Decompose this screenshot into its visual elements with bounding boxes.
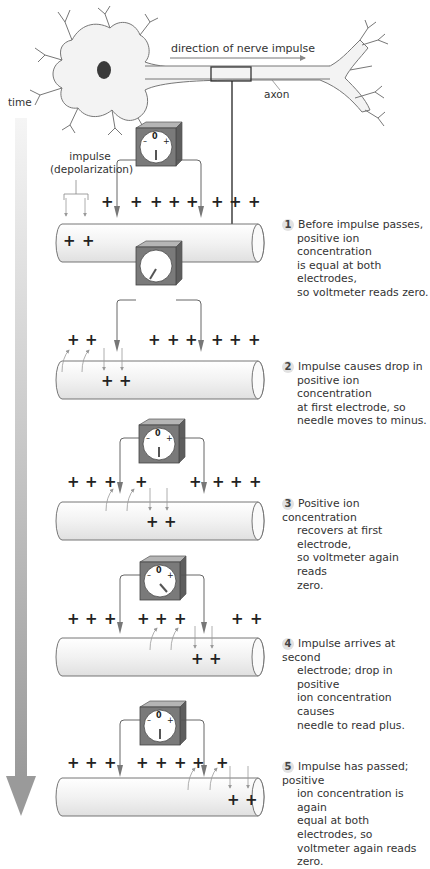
step-number-badge: 4 (282, 638, 294, 650)
svg-text:+: + (227, 791, 240, 809)
impulse-label-line2: (depolarization) (50, 163, 130, 176)
meter-plus-label: + (166, 434, 173, 443)
impulse-label: impulse (depolarization) (50, 150, 130, 176)
meter-plus-label: + (167, 716, 174, 725)
caption-line: so voltmeter reads zero. (282, 286, 430, 300)
caption-line: zero. (282, 579, 430, 593)
impulse-label-line1: impulse (50, 150, 130, 163)
axon-segment (56, 638, 264, 676)
svg-text:+: + (185, 331, 198, 349)
caption-line: Impulse arrives at second (282, 637, 395, 664)
svg-text:+: + (167, 331, 180, 349)
meter-minus-label: – (143, 137, 147, 146)
svg-text:+: + (135, 473, 148, 491)
meter-minus-label: – (147, 571, 151, 580)
axon-segment (56, 502, 264, 540)
svg-text:+: + (67, 610, 80, 628)
axon-label: axon (264, 88, 289, 100)
svg-text:+: + (67, 331, 80, 349)
svg-text:+: + (85, 331, 98, 349)
svg-text:+: + (104, 610, 117, 628)
meter-zero-label: 0 (155, 429, 161, 438)
svg-text:+: + (85, 610, 98, 628)
step-3-caption: 3Positive ion concentration recovers at … (282, 497, 430, 592)
svg-text:+: + (101, 372, 114, 390)
svg-text:+: + (174, 610, 187, 628)
svg-text:+: + (119, 372, 132, 390)
svg-text:+: + (130, 193, 143, 211)
svg-text:+: + (249, 473, 262, 491)
svg-text:+: + (137, 610, 150, 628)
svg-text:+: + (229, 331, 242, 349)
caption-line: voltmeter again reads zero. (282, 842, 430, 869)
svg-text:+: + (82, 232, 95, 250)
step-2-wires (56, 300, 264, 399)
svg-text:+: + (248, 331, 261, 349)
svg-text:+: + (229, 193, 242, 211)
caption-line: so voltmeter again reads (282, 551, 430, 578)
svg-text:+: + (146, 513, 159, 531)
svg-text:+: + (155, 754, 168, 772)
step-2-figure (136, 241, 182, 285)
svg-text:+: + (230, 473, 243, 491)
caption-line: Before impulse passes, (298, 218, 423, 231)
svg-text:+: + (212, 473, 225, 491)
svg-text:+: + (164, 513, 177, 531)
svg-text:+: + (191, 650, 204, 668)
caption-line: Impulse has passed; positive (282, 760, 408, 787)
meter-zero-label: 0 (156, 711, 162, 720)
caption-line: needle to read plus. (282, 719, 430, 733)
meter-plus-label: + (167, 571, 174, 580)
time-arrow-head (6, 776, 36, 816)
svg-text:+: + (211, 193, 224, 211)
impulse-direction-label: direction of nerve impulse (171, 42, 315, 55)
caption-line: is equal at both electrodes, (282, 259, 430, 286)
step-number-badge: 3 (282, 498, 294, 510)
caption-line: positive ion concentration (282, 232, 430, 259)
svg-text:+: + (136, 754, 149, 772)
step-1-caption: 1Before impulse passes, positive ion con… (282, 218, 430, 300)
caption-line: ion concentration causes (282, 691, 430, 718)
svg-text:+: + (192, 754, 205, 772)
caption-line: electrode; drop in positive (282, 664, 430, 691)
step-number-badge: 5 (282, 761, 294, 773)
caption-line: needle moves to minus. (282, 414, 430, 428)
step-number-badge: 2 (282, 361, 294, 373)
svg-text:+: + (174, 754, 187, 772)
svg-text:+: + (104, 754, 117, 772)
svg-text:+: + (104, 473, 117, 491)
caption-line: recovers at first electrode, (282, 524, 430, 551)
nucleus (97, 61, 111, 79)
svg-text:+: + (85, 473, 98, 491)
meter-minus-label: – (146, 434, 150, 443)
meter-minus-label: – (147, 716, 151, 725)
axon-segment (56, 361, 264, 399)
time-axis-label: time (8, 96, 32, 108)
svg-text:+: + (216, 754, 229, 772)
svg-text:+: + (85, 754, 98, 772)
meter-plus-label: + (163, 137, 170, 146)
step-number-badge: 1 (282, 219, 294, 231)
svg-text:+: + (63, 232, 76, 250)
step-5-caption: 5Impulse has passed; positive ion concen… (282, 760, 430, 869)
svg-text:+: + (67, 754, 80, 772)
svg-text:+: + (231, 610, 244, 628)
svg-text:+: + (189, 473, 202, 491)
svg-text:+: + (211, 331, 224, 349)
caption-line: equal at both electrodes, so (282, 814, 430, 841)
svg-text:+: + (101, 193, 114, 211)
caption-line: Impulse causes drop in (298, 360, 423, 373)
caption-line: at first electrode, so (282, 401, 430, 415)
svg-text:+: + (155, 610, 168, 628)
svg-text:+: + (245, 791, 258, 809)
svg-text:+: + (250, 610, 263, 628)
svg-text:+: + (209, 650, 222, 668)
svg-text:+: + (248, 193, 261, 211)
svg-text:+: + (150, 193, 163, 211)
meter-zero-label: 0 (152, 132, 158, 141)
caption-line: positive ion concentration (282, 374, 430, 401)
step-4-caption: 4Impulse arrives at second electrode; dr… (282, 637, 430, 732)
svg-text:+: + (148, 331, 161, 349)
step-2-caption: 2Impulse causes drop in positive ion con… (282, 360, 430, 428)
meter-zero-label: 0 (156, 566, 162, 575)
